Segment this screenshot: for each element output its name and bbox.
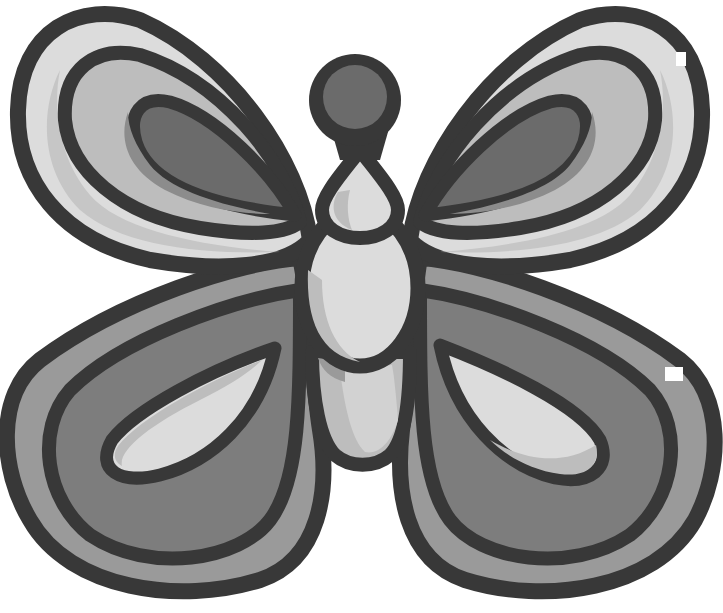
butterfly-illustration (0, 0, 723, 613)
edge-notch-upper (676, 52, 686, 66)
upper-right-wing (410, 14, 702, 266)
thorax (322, 150, 398, 238)
edge-notch-lower (665, 367, 683, 381)
head-inner (323, 65, 387, 129)
butterfly-svg (0, 0, 723, 613)
upper-left-wing (18, 14, 310, 266)
lower-left-wing (7, 258, 324, 591)
lower-right-wing (400, 258, 715, 591)
butterfly-body (302, 54, 418, 465)
